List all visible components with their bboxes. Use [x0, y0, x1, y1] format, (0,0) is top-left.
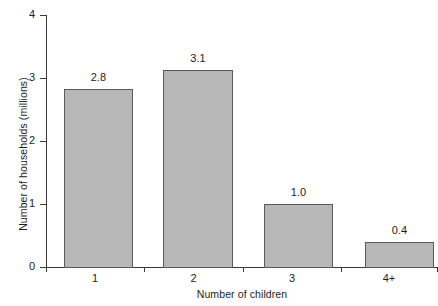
bar-1: [64, 89, 133, 268]
y-tick-label-1: 1: [29, 197, 35, 209]
x-axis-label: Number of children: [46, 288, 438, 300]
y-tick-3: 3: [40, 78, 46, 79]
bar-3: [264, 204, 333, 268]
y-axis-label: Number of households (millions): [17, 39, 29, 269]
bar-2: [163, 70, 233, 268]
bar-value-4: 0.4: [365, 224, 434, 236]
x-tick-label-3: 3: [243, 272, 341, 284]
x-tick-label-4: 4+: [341, 272, 437, 284]
y-tick-2: 2: [40, 141, 46, 142]
y-tick-label-0: 0: [29, 260, 35, 272]
bar-value-2: 3.1: [163, 52, 233, 64]
y-axis-line: [46, 15, 47, 268]
y-tick-label-3: 3: [29, 71, 35, 83]
y-tick-1: 1: [40, 204, 46, 205]
bar-value-3: 1.0: [264, 186, 333, 198]
x-tick-label-1: 1: [46, 272, 144, 284]
y-tick-label-4: 4: [29, 8, 35, 20]
y-tick-label-2: 2: [29, 134, 35, 146]
x-tick-label-2: 2: [144, 272, 243, 284]
bar-chart: Number of households (millions) 0 1 2 3 …: [0, 0, 438, 306]
bar-4: [365, 242, 434, 268]
y-tick-4: 4: [40, 15, 46, 16]
bar-value-1: 2.8: [64, 71, 133, 83]
